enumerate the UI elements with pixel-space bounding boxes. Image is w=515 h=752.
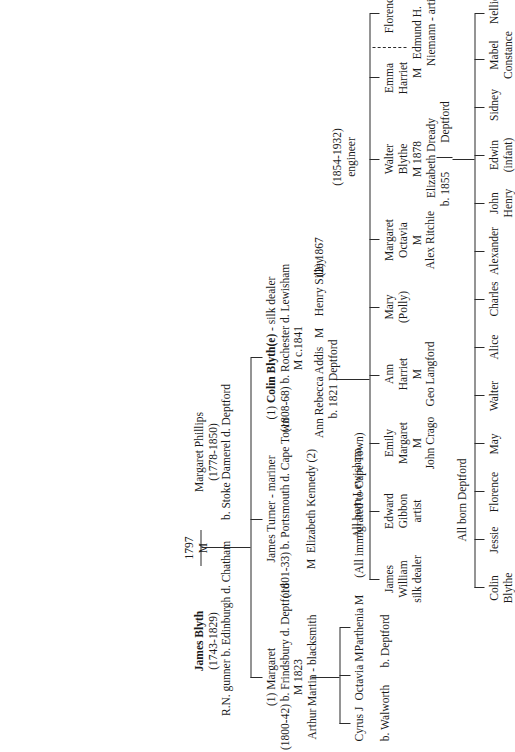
person-james-william: James William silk dealer bbox=[382, 540, 423, 618]
person-james-blyth: James Blyth (1743-1829) R.N. gunner b. E… bbox=[192, 566, 233, 716]
james-blyth-dates: (1743-1829) bbox=[206, 566, 220, 716]
tick-g3-2 bbox=[369, 443, 379, 444]
person-walter-g4: Walter bbox=[487, 364, 501, 428]
margaret-phillips-dates: (1778-1850) bbox=[206, 372, 220, 532]
tick-g3-8 bbox=[369, 13, 379, 14]
tick-g4-11 bbox=[474, 59, 484, 60]
walter-blythe-spouse: Elizabeth Dready bbox=[424, 98, 438, 218]
note-all-born-lewisham: All born Lewisham bbox=[350, 428, 364, 558]
tick-g2-colin bbox=[250, 357, 262, 358]
emma-harriet-spouse-surname: Niemann - artist bbox=[424, 0, 438, 66]
colin-blythe-sr-order: (1) bbox=[264, 406, 276, 419]
colin-blythe-sr-name: Colin Blyth(e) bbox=[264, 334, 276, 403]
emma-harriet-marriage: M Edmund H. bbox=[410, 0, 424, 78]
note-all-born-deptford: All born Deptford bbox=[455, 440, 469, 560]
person-john-henry: John Henry bbox=[487, 176, 515, 230]
sibling-bar-martin bbox=[339, 628, 340, 724]
tick-g4-8 bbox=[474, 203, 484, 204]
tick-g3-7 bbox=[369, 77, 379, 78]
tick-g3-0 bbox=[369, 579, 379, 580]
tick-g2-margaret bbox=[250, 677, 262, 678]
person-nellie: Nellie bbox=[487, 0, 501, 38]
tick-g4-1 bbox=[474, 539, 484, 540]
tick-g4-5 bbox=[474, 347, 484, 348]
colin-blythe-sr-occupation: - silk dealer bbox=[264, 277, 276, 331]
tick-g3-3 bbox=[369, 375, 379, 376]
walter-blythe-spouse-place: Deptford bbox=[438, 90, 452, 154]
margaret-blyth-marriage: M 1823 bbox=[291, 604, 305, 750]
separator-spouse-place bbox=[436, 157, 452, 158]
sibling-bar-g4 bbox=[474, 14, 475, 588]
sibling-bar-g3 bbox=[369, 14, 370, 580]
person-edward-gibbon: Edward Gibbon artist bbox=[382, 474, 423, 548]
colin-blythe-sr-marriage: M c.1841 bbox=[291, 258, 305, 438]
marriage-symbol-g1: 1797 M bbox=[182, 534, 209, 562]
person-mary-polly: Mary (Polly) bbox=[382, 274, 410, 340]
tick-martin-parthenia bbox=[339, 627, 350, 628]
person-walter-blythe: Walter Blythe M 1878 bbox=[382, 120, 423, 198]
margaret-blyth-dates-place: (1800-42) b. Frindsbury d. Deptford bbox=[278, 604, 292, 750]
person-james-turner: James Turner - mariner (1801-33) b. Port… bbox=[264, 420, 318, 598]
tick-g4-4 bbox=[474, 395, 484, 396]
walter-blythe-spouse-dates: b. 1855 bbox=[438, 160, 452, 218]
person-edwin: Edwin (infant) bbox=[487, 126, 515, 184]
james-turner-marriage-symbol: M bbox=[304, 559, 316, 569]
margaret-phillips-name: Margaret Phillips bbox=[192, 372, 206, 532]
person-ann-harriet: Ann Harriet M Geo Langford bbox=[382, 334, 437, 414]
drop-line-g4 bbox=[452, 159, 474, 160]
sibling-bar-g2 bbox=[250, 358, 251, 678]
tick-g3-1 bbox=[369, 511, 379, 512]
walter-blythe-dates: (1854-1932) engineer bbox=[330, 114, 358, 200]
tick-g4-3 bbox=[474, 443, 484, 444]
tick-g4-6 bbox=[474, 299, 484, 300]
james-turner-dates-place: (1801-33) b. Portsmouth d. Cape Town bbox=[278, 420, 292, 598]
james-blyth-note: R.N. gunner b. Edinburgh d. Chatham bbox=[219, 566, 233, 716]
tick-g4-0 bbox=[474, 587, 484, 588]
tick-g4-10 bbox=[474, 107, 484, 108]
person-florence-g3: Florence bbox=[382, 0, 396, 48]
james-blyth-name: James Blyth bbox=[192, 566, 206, 716]
person-margaret-blyth: (1) Margaret (1800-42) b. Frindsbury d. … bbox=[264, 604, 318, 750]
james-turner-name: James Turner - mariner bbox=[264, 420, 278, 598]
ann-rebecca-addis: Ann Rebecca Addis bbox=[312, 347, 324, 438]
person-emma-harriet: Emma Harriet bbox=[382, 38, 410, 118]
marriage-m-g1: M bbox=[196, 534, 210, 562]
drop-line-blythe-g3 bbox=[333, 379, 369, 380]
tick-martin-cyrus bbox=[339, 723, 350, 724]
margaret-blyth-order: (1) Margaret bbox=[264, 604, 278, 750]
colin-blythe-sr-dates-place: (1808-68) b. Rochester d. Lewisham bbox=[278, 258, 292, 438]
tick-g4-2 bbox=[474, 491, 484, 492]
tick-g3-5 bbox=[369, 239, 379, 240]
tick-g4-9 bbox=[474, 155, 484, 156]
tick-g4-12 bbox=[474, 13, 484, 14]
tick-g4-7 bbox=[474, 251, 484, 252]
drop-line-martin bbox=[311, 677, 339, 678]
person-parthenia-m: Parthenia M bbox=[352, 588, 366, 658]
silley-marriage-2: (2) 1867 bbox=[312, 222, 326, 292]
tick-g2-james-turner bbox=[250, 519, 262, 520]
tick-g3-4 bbox=[369, 307, 379, 308]
marriage-year-g1: 1797 bbox=[182, 534, 196, 562]
margaret-phillips-note: b. Stoke Damerel d. Deptford bbox=[219, 372, 233, 532]
james-turner-spouse: Elizabeth Kennedy (2) bbox=[304, 449, 316, 553]
dashed-separator-florence bbox=[372, 47, 406, 48]
tick-martin-octavia bbox=[339, 675, 350, 676]
person-emily-margaret: Emily Margaret M John Crago bbox=[382, 404, 437, 482]
birthplace-walworth: b. Walworth bbox=[378, 678, 392, 748]
silley-marriage-symbol: M bbox=[312, 328, 324, 338]
person-florence-g4: Florence bbox=[487, 458, 501, 526]
tick-g3-6 bbox=[369, 159, 379, 160]
person-margaret-phillips: Margaret Phillips (1778-1850) b. Stoke D… bbox=[192, 372, 233, 532]
drop-line-g1-to-g2 bbox=[201, 547, 250, 548]
person-colin-blythe-sr: (1) Colin Blyth(e) - silk dealer (1808-6… bbox=[264, 258, 305, 438]
